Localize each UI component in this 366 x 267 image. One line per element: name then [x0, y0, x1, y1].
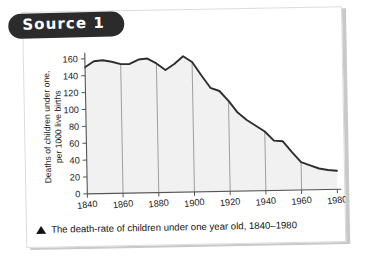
- source-badge: Source 1: [8, 11, 124, 39]
- y-axis-label-line1: Deaths of children under one,: [41, 71, 53, 184]
- y-tick-label-80: 80: [69, 122, 79, 132]
- x-tick-label-1880: 1880: [148, 197, 169, 209]
- triangle-up-icon: [36, 225, 46, 233]
- y-tick-label-140: 140: [63, 71, 79, 81]
- y-tick-label-120: 120: [63, 88, 79, 98]
- y-tick-label-40: 40: [69, 156, 79, 166]
- gridline-1960: [301, 162, 302, 190]
- x-tick-label-1860: 1860: [112, 198, 133, 210]
- chart-container: 0204060801001201401601840186018801900192…: [22, 6, 346, 248]
- death-rate-area-chart: 0204060801001201401601840186018801900192…: [22, 6, 346, 248]
- y-tick-label-0: 0: [75, 189, 80, 199]
- y-tick-label-160: 160: [62, 54, 78, 64]
- x-tick-label-1940: 1940: [255, 196, 276, 208]
- y-tick-label-100: 100: [63, 105, 79, 115]
- x-tick-label-1900: 1900: [184, 197, 205, 209]
- x-tick-label-1840: 1840: [77, 199, 98, 211]
- y-axis-label-line2: per 1000 live births: [52, 90, 63, 163]
- y-tick-label-60: 60: [69, 139, 79, 149]
- y-tick-label-20: 20: [70, 172, 80, 182]
- x-tick-label-1920: 1920: [219, 196, 240, 208]
- x-tick-label-1980: 1980: [327, 194, 347, 206]
- x-tick-label-1960: 1960: [291, 195, 312, 207]
